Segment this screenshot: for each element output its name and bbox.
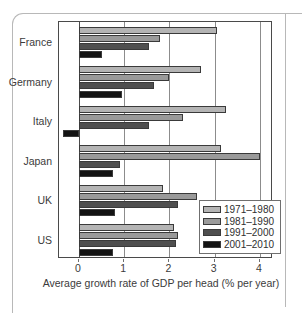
bar xyxy=(79,153,260,160)
page-border-right xyxy=(285,13,286,307)
bar xyxy=(79,43,149,50)
bar xyxy=(79,66,201,73)
bar xyxy=(79,224,174,231)
bar xyxy=(79,201,178,208)
legend-item: 1971–1980 xyxy=(203,204,276,216)
bar xyxy=(79,185,163,192)
chart-legend: 1971–19801981–19901991–20002001–2010 xyxy=(199,200,281,254)
y-axis-label: Japan xyxy=(23,154,52,168)
bar xyxy=(63,130,79,137)
x-axis-ticks: 01234 xyxy=(58,259,272,274)
legend-swatch xyxy=(203,229,221,236)
bar xyxy=(79,27,217,34)
bar xyxy=(79,82,154,89)
y-axis-label: Italy xyxy=(33,114,52,128)
legend-item: 1981–1990 xyxy=(203,216,276,228)
legend-item: 2001–2010 xyxy=(203,239,276,251)
x-tick-label: 1 xyxy=(112,262,134,274)
figure-canvas: FranceGermanyItalyJapanUKUS 01234 Averag… xyxy=(0,0,298,307)
legend-swatch xyxy=(203,218,221,225)
x-tick-label: 0 xyxy=(67,262,89,274)
y-axis-label: US xyxy=(37,233,52,247)
legend-label: 2001–2010 xyxy=(224,239,274,250)
bar xyxy=(79,74,169,81)
legend-item: 1991–2000 xyxy=(203,227,276,239)
bar-group xyxy=(59,63,271,103)
bar xyxy=(79,193,197,200)
bar xyxy=(79,240,176,247)
x-axis-title: Average growth rate of GDP per head (% p… xyxy=(40,277,282,289)
x-tick-label: 4 xyxy=(248,262,270,274)
x-tick-label: 3 xyxy=(203,262,225,274)
bar xyxy=(79,161,120,168)
bar xyxy=(79,35,160,42)
bar-group xyxy=(59,24,271,64)
bar xyxy=(79,170,113,177)
bar xyxy=(79,249,113,256)
bar xyxy=(79,122,149,129)
bar xyxy=(79,51,102,58)
legend-label: 1981–1990 xyxy=(224,216,274,227)
bar xyxy=(79,209,115,216)
legend-label: 1971–1980 xyxy=(224,204,274,215)
legend-label: 1991–2000 xyxy=(224,227,274,238)
bar-group xyxy=(59,103,271,143)
x-tick-label: 2 xyxy=(157,262,179,274)
legend-swatch xyxy=(203,206,221,213)
y-axis-label: France xyxy=(19,35,52,49)
bar xyxy=(79,145,221,152)
bar xyxy=(79,114,183,121)
y-axis-label: UK xyxy=(37,193,52,207)
bar xyxy=(79,232,178,239)
bar-group xyxy=(59,142,271,182)
y-axis-category-labels: FranceGermanyItalyJapanUKUS xyxy=(0,21,56,258)
legend-swatch xyxy=(203,241,221,248)
bar xyxy=(79,91,122,98)
y-axis-label: Germany xyxy=(9,75,52,89)
bar xyxy=(79,106,226,113)
